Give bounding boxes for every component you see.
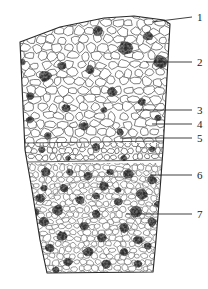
- figure-label-3: 3: [197, 105, 203, 116]
- tissue-cell: [113, 20, 124, 28]
- figure-label-6: 6: [197, 170, 203, 181]
- tissue-cell: [107, 76, 115, 84]
- tissue-cell: [31, 129, 40, 137]
- tissue-cell: [69, 88, 78, 94]
- idioblast-cluster: [93, 26, 102, 35]
- tissue-cell: [73, 212, 78, 218]
- tissue-cell: [103, 201, 109, 207]
- figure-root: 1234567: [0, 0, 208, 289]
- idioblast-cluster: [58, 62, 67, 69]
- tissue-cell: [49, 230, 55, 234]
- tissue-cell: [141, 127, 149, 135]
- tissue-cell: [132, 165, 138, 171]
- idioblast-cluster: [45, 133, 52, 140]
- tissue-cell: [62, 218, 69, 223]
- tissue-cell: [30, 63, 38, 69]
- tissue-cell: [114, 265, 121, 270]
- tissue-cell: [56, 154, 61, 161]
- tissue-cell: [124, 20, 132, 26]
- tissue-cell: [136, 146, 141, 152]
- tissue-cell: [65, 44, 74, 51]
- tissue-cell: [90, 218, 98, 222]
- stone-cell-cluster: [114, 199, 122, 205]
- tissue-cell: [84, 28, 94, 35]
- figure-label-4: 4: [197, 119, 203, 130]
- tissue-cell: [84, 182, 89, 187]
- cross-section-illustration: [0, 0, 208, 289]
- tissue-cell: [28, 154, 35, 158]
- tissue-cell: [30, 80, 41, 86]
- tissue-cell: [52, 148, 57, 154]
- figure-label-1: 1: [197, 12, 203, 23]
- tissue-cell: [107, 149, 115, 154]
- tissue-cell: [132, 51, 144, 59]
- tissue-cell: [115, 254, 120, 260]
- figure-label-5: 5: [197, 133, 203, 144]
- tissue-cell: [25, 53, 34, 59]
- stone-cell-cluster: [80, 223, 89, 230]
- tissue-cell: [53, 165, 57, 170]
- tissue-cell: [89, 188, 93, 194]
- tissue-cell: [137, 153, 142, 159]
- tissue-cell: [73, 148, 79, 154]
- idioblast-cluster: [116, 129, 123, 136]
- tissue-cell: [111, 52, 120, 60]
- stone-cell-cluster: [41, 185, 48, 191]
- tissue-cell: [135, 254, 140, 258]
- figure-label-7: 7: [197, 209, 203, 220]
- tissue-cell: [144, 154, 149, 159]
- idioblast-cluster: [27, 93, 35, 100]
- tissue-cell: [146, 166, 152, 172]
- tissue-cell: [146, 213, 152, 217]
- tissue-cell: [38, 51, 47, 61]
- tissue-cell: [159, 37, 167, 43]
- tissue-cell: [139, 200, 145, 205]
- figure-label-2: 2: [197, 57, 203, 68]
- tissue-cell: [45, 121, 56, 128]
- stone-cell-cluster: [97, 234, 107, 242]
- tissue-cell: [137, 164, 143, 170]
- tissue-cell: [111, 143, 117, 148]
- tissue-cell: [150, 129, 159, 135]
- idioblast-cluster: [119, 42, 134, 55]
- tissue-cell: [141, 148, 147, 153]
- tissue-cell: [52, 44, 63, 53]
